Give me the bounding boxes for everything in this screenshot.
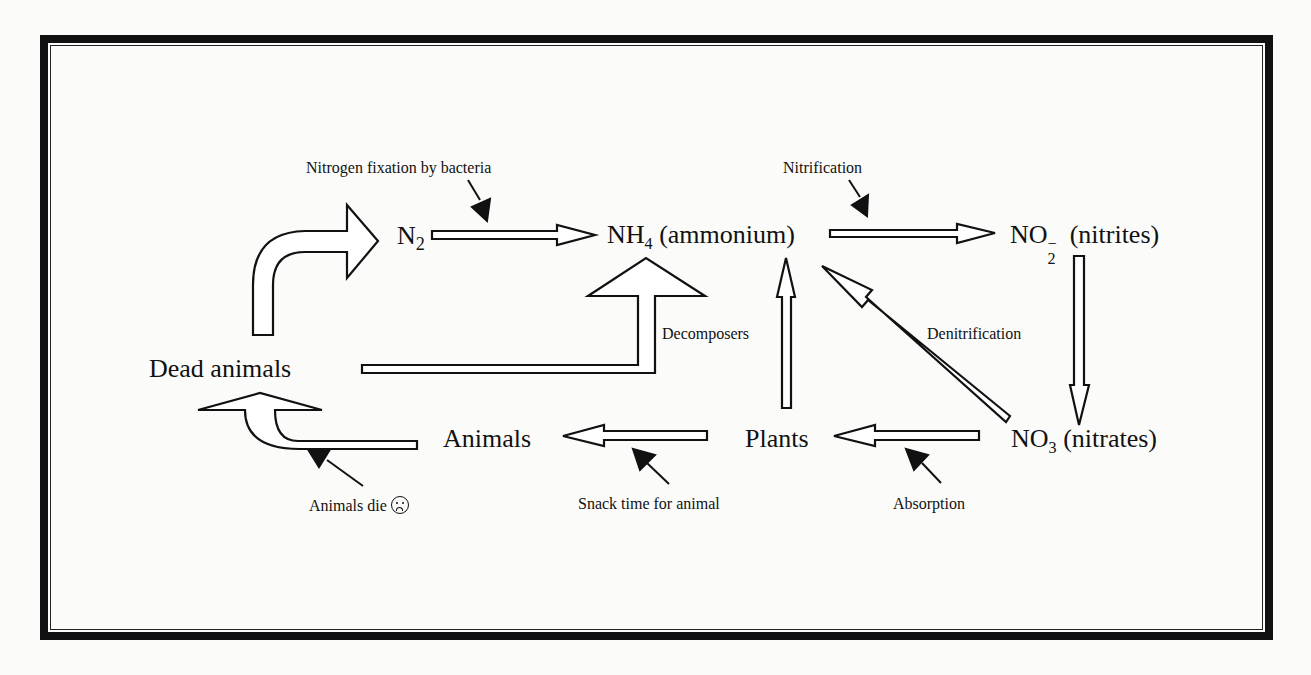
pointer-animals-die	[309, 451, 363, 486]
no2-rest: (nitrites)	[1057, 220, 1160, 249]
arrow-no3-to-plants	[834, 425, 979, 446]
n2-sub: 2	[416, 234, 425, 254]
node-n2: N2	[397, 223, 425, 253]
arrow-no3-to-nh4	[822, 266, 1010, 422]
arrow-animals-to-dead	[198, 393, 417, 449]
arrow-plants-to-animals	[563, 425, 707, 446]
arrow-nh4-to-no2	[830, 224, 995, 243]
no2-sub: 2	[1048, 252, 1057, 267]
node-plants: Plants	[745, 426, 809, 452]
pointer-fixation	[468, 180, 490, 221]
node-animals: Animals	[443, 426, 531, 452]
label-absorption: Absorption	[893, 496, 965, 512]
pointer-absorption	[906, 449, 941, 483]
no2-base: NO	[1010, 220, 1048, 249]
label-denitrification: Denitrification	[927, 326, 1021, 342]
nh4-sub: 4	[645, 235, 653, 252]
no2-scripts: −2	[1048, 237, 1057, 266]
sad-face-icon	[391, 496, 409, 514]
node-no3: NO3 (nitrates)	[1011, 426, 1157, 456]
nh4-rest: (ammonium)	[653, 220, 795, 249]
node-no2: NO−2 (nitrites)	[1010, 222, 1159, 266]
node-dead-animals: Dead animals	[149, 356, 291, 382]
n2-base: N	[397, 221, 416, 250]
pointer-snack	[633, 449, 669, 484]
no3-rest: (nitrates)	[1057, 424, 1157, 453]
nh4-base: NH	[607, 220, 645, 249]
pointer-nitrification	[849, 180, 868, 216]
arrow-dead-to-nh4	[362, 258, 705, 373]
label-animals-die: Animals die	[309, 496, 409, 514]
arrows-layer	[0, 0, 1311, 675]
no3-base: NO	[1011, 424, 1049, 453]
arrow-no2-to-no3	[1070, 256, 1089, 425]
label-fixation: Nitrogen fixation by bacteria	[306, 160, 491, 176]
arrow-plants-to-nh4	[777, 258, 795, 408]
label-snack: Snack time for animal	[578, 496, 720, 512]
arrow-n2-to-nh4	[432, 225, 595, 245]
no3-sub: 3	[1049, 439, 1057, 456]
arrow-dead-to-n2	[253, 205, 378, 335]
node-nh4: NH4 (ammonium)	[607, 222, 795, 252]
animals-die-text: Animals die	[309, 497, 387, 514]
label-nitrification: Nitrification	[783, 160, 862, 176]
label-decomposers: Decomposers	[662, 326, 749, 342]
